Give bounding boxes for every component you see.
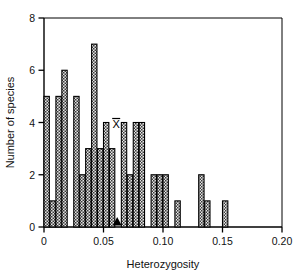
histogram-bar	[163, 175, 168, 227]
histogram-bar	[44, 96, 49, 227]
histogram-bar	[151, 175, 156, 227]
y-tick-label-2: 2	[29, 169, 35, 181]
x-tick-label-015: 0.15	[212, 235, 233, 247]
histogram-bar	[62, 70, 67, 227]
histogram-bar	[104, 123, 109, 228]
histogram-bar	[139, 123, 144, 228]
histogram-bar	[92, 44, 97, 227]
x-axis-title: Heterozygosity	[127, 258, 200, 270]
y-tick-label-4: 4	[29, 117, 35, 129]
histogram-bar	[133, 123, 138, 228]
x-tick-label-0: 0	[41, 235, 47, 247]
histogram-bar	[223, 201, 228, 227]
y-axis-tick-labels: 0 2 4 6 8	[29, 12, 35, 233]
histogram-figure: 0 2 4 6 8 0 0.05 0.10 0.15 0.20	[0, 0, 294, 279]
histogram-bar	[175, 201, 180, 227]
histogram-bar	[86, 149, 91, 227]
histogram-bar	[50, 201, 55, 227]
x-axis-tick-labels: 0 0.05 0.10 0.15 0.20	[41, 235, 292, 247]
histogram-bar	[56, 96, 61, 227]
y-axis-ticks	[39, 18, 45, 227]
y-tick-label-6: 6	[29, 64, 35, 76]
x-tick-label-010: 0.10	[153, 235, 174, 247]
histogram-bar	[121, 123, 126, 228]
histogram-bar	[157, 175, 162, 227]
x-tick-label-005: 0.05	[93, 235, 114, 247]
y-axis-title: Number of species	[4, 76, 16, 168]
mean-symbol-label: X	[113, 118, 121, 130]
histogram-bar	[127, 175, 132, 227]
y-tick-label-0: 0	[29, 221, 35, 233]
y-tick-label-8: 8	[29, 12, 35, 24]
histogram-bar	[74, 96, 79, 227]
histogram-bars	[44, 44, 228, 227]
x-tick-label-020: 0.20	[272, 235, 293, 247]
histogram-bar	[205, 201, 210, 227]
histogram-bar	[98, 149, 103, 227]
histogram-bar	[80, 175, 85, 227]
histogram-bar	[109, 149, 114, 227]
x-axis-ticks	[44, 227, 282, 233]
histogram-bar	[199, 175, 204, 227]
chart-canvas: 0 2 4 6 8 0 0.05 0.10 0.15 0.20	[0, 0, 294, 279]
